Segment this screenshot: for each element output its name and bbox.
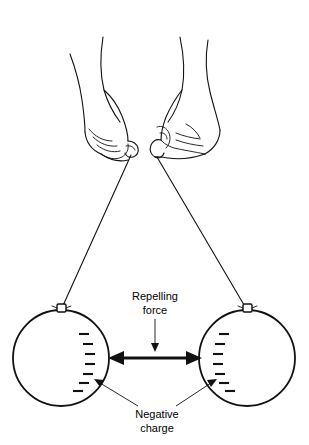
repelling-force-label: Repelling force [132, 290, 178, 316]
negative-charge-pointer-right [176, 379, 217, 406]
physics-diagram-figure: Repelling force Negative charge [0, 0, 309, 445]
negative-charge-label-line1: Negative [135, 408, 178, 420]
right-charged-sphere [199, 304, 295, 406]
repelling-force-label-line1: Repelling [132, 290, 178, 302]
negative-charge-label: Negative charge [135, 408, 178, 434]
hands-group [70, 37, 220, 161]
negative-charge-pointer-left [94, 379, 138, 406]
left-string [61, 155, 131, 310]
right-string [157, 157, 247, 310]
repelling-force-pointer-arrow [151, 319, 159, 352]
left-hand-holding-string [70, 37, 138, 161]
right-hand-holding-string [150, 37, 220, 159]
negative-charge-label-line2: charge [140, 422, 174, 434]
left-charged-sphere [13, 304, 109, 406]
strings-group [61, 155, 247, 310]
repelling-force-label-line2: force [143, 304, 167, 316]
diagram-canvas: Repelling force Negative charge [0, 0, 309, 445]
repelling-force-double-arrow [108, 351, 202, 365]
